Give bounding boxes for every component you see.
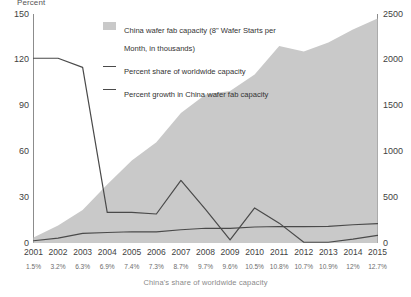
legend-item-percent-growth: Percent growth in China wafer fab capaci… bbox=[103, 83, 278, 101]
x-axis-year-label: 2012 bbox=[294, 247, 313, 257]
x-axis-year-label: 2011 bbox=[270, 247, 288, 257]
x-axis-share-percent-label: 7.4% bbox=[124, 262, 139, 271]
x-axis-year-label: 2004 bbox=[98, 247, 117, 257]
x-axis-share-percent-label: 6.9% bbox=[100, 262, 115, 271]
y-axis-right-tick-0: 0 bbox=[383, 239, 411, 248]
x-axis-share-percent-label: 12.7% bbox=[368, 262, 387, 271]
y-axis-right-tick-1500: 1500 bbox=[383, 101, 411, 110]
y-axis-title: Percent bbox=[17, 0, 45, 7]
x-axis-year-label: 2003 bbox=[73, 247, 92, 257]
x-axis-year-label: 2014 bbox=[343, 247, 362, 257]
x-axis-share-percent-label: 12% bbox=[346, 262, 359, 271]
y-axis-left-tick-60: 60 bbox=[3, 147, 29, 156]
x-axis-year-label: 2005 bbox=[122, 247, 141, 257]
x-axis-year-labels: 2001200220032004200520062007200820092010… bbox=[33, 247, 378, 259]
y-axis-right-tick-500: 500 bbox=[383, 193, 411, 202]
x-axis-year-label: 2002 bbox=[49, 247, 68, 257]
legend-item-label: China wafer fab capacity (8" Wafer Start… bbox=[124, 26, 276, 53]
x-axis-share-percent-label: 8.7% bbox=[173, 262, 188, 271]
legend-line-swatch-icon bbox=[103, 66, 116, 67]
chart-caption: China's share of worldwide capacity bbox=[0, 278, 411, 287]
y-axis-left-tick-90: 90 bbox=[3, 101, 29, 110]
x-axis-share-percent-label: 6.3% bbox=[75, 262, 90, 271]
legend-area-swatch-icon bbox=[103, 22, 116, 30]
x-axis-share-percent-labels: 1.5%3.2%6.3%6.9%7.4%7.3%8.7%9.7%9.6%10.5… bbox=[33, 262, 378, 273]
chart-legend: China wafer fab capacity (8" Wafer Start… bbox=[103, 19, 278, 106]
x-axis-year-label: 2013 bbox=[319, 247, 338, 257]
legend-item-label: Percent share of worldwide capacity bbox=[124, 67, 246, 76]
y-axis-left-tick-120: 120 bbox=[3, 55, 29, 64]
x-axis-year-label: 2008 bbox=[196, 247, 215, 257]
y-axis-right-tick-2000: 2000 bbox=[383, 55, 411, 64]
y-axis-left-tick-150: 150 bbox=[3, 10, 29, 19]
x-axis-year-label: 2010 bbox=[245, 247, 264, 257]
x-axis-share-percent-label: 10.8% bbox=[270, 262, 289, 271]
x-axis-share-percent-label: 10.9% bbox=[319, 262, 338, 271]
x-axis-year-label: 2009 bbox=[221, 247, 240, 257]
x-axis-year-label: 2015 bbox=[368, 247, 387, 257]
legend-item-china-capacity: China wafer fab capacity (8" Wafer Start… bbox=[103, 19, 278, 55]
x-axis-share-percent-label: 3.2% bbox=[51, 262, 66, 271]
x-axis-year-label: 2006 bbox=[147, 247, 166, 257]
legend-item-percent-share: Percent share of worldwide capacity bbox=[103, 60, 278, 78]
y-axis-right-tick-2500: 2500 bbox=[383, 10, 411, 19]
x-axis-year-label: 2001 bbox=[24, 247, 43, 257]
x-axis-share-percent-label: 10.5% bbox=[245, 262, 264, 271]
x-axis-share-percent-label: 9.6% bbox=[223, 262, 238, 271]
chart-container: Percent 0306090120150 050010001500200025… bbox=[0, 0, 411, 297]
legend-item-label: Percent growth in China wafer fab capaci… bbox=[124, 90, 268, 99]
x-axis-share-percent-label: 1.5% bbox=[26, 262, 41, 271]
y-axis-left-tick-30: 30 bbox=[3, 193, 29, 202]
x-axis-share-percent-label: 7.3% bbox=[149, 262, 164, 271]
legend-line-swatch-icon bbox=[103, 89, 116, 90]
x-axis-share-percent-label: 10.7% bbox=[294, 262, 313, 271]
x-axis-share-percent-label: 9.7% bbox=[198, 262, 213, 271]
y-axis-right-tick-1000: 1000 bbox=[383, 147, 411, 156]
x-axis-year-label: 2007 bbox=[171, 247, 190, 257]
